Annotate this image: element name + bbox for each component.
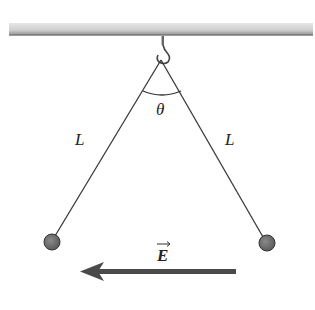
- field-label: E: [157, 247, 168, 264]
- left-string: [55, 60, 161, 236]
- left-length-label: L: [75, 131, 84, 148]
- left-ball: [44, 234, 60, 250]
- angle-label: θ: [156, 101, 164, 118]
- right-string: [161, 60, 263, 237]
- ceiling-bar: [9, 23, 313, 35]
- diagram-canvas: θ L L E: [0, 0, 315, 310]
- angle-arc: [143, 91, 181, 95]
- hook-icon: [157, 36, 169, 64]
- right-ball: [259, 235, 275, 251]
- right-length-label: L: [225, 131, 234, 148]
